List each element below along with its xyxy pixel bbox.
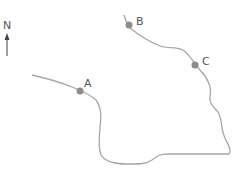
waypoint-b[interactable]: B: [126, 15, 144, 29]
north-arrow-icon: N: [3, 19, 11, 56]
waypoint-c[interactable]: C: [192, 55, 211, 69]
trail-map: N A B C: [0, 0, 240, 174]
trail-route: [32, 15, 230, 164]
waypoint-b-label: B: [136, 15, 144, 28]
waypoint-c-label: C: [202, 55, 210, 68]
waypoint-a-label: A: [84, 77, 92, 90]
compass-label: N: [3, 19, 11, 32]
